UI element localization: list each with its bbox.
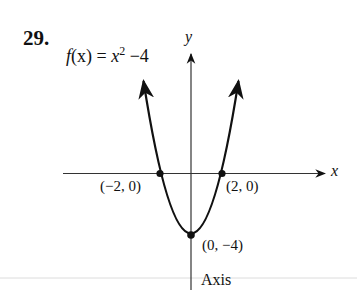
x-axis-label: x	[331, 162, 338, 180]
point-label-2-0: (2, 0)	[226, 178, 259, 195]
point-2-0	[218, 170, 225, 177]
y-axis-label: y	[185, 28, 192, 46]
axis-caption: Axis	[201, 271, 231, 289]
point-label-vertex: (0, −4)	[202, 237, 243, 254]
point-vertex	[187, 231, 195, 239]
graph-canvas	[0, 0, 357, 290]
point-neg2-0	[156, 170, 163, 177]
point-label-neg2-0: (−2, 0)	[100, 178, 141, 195]
